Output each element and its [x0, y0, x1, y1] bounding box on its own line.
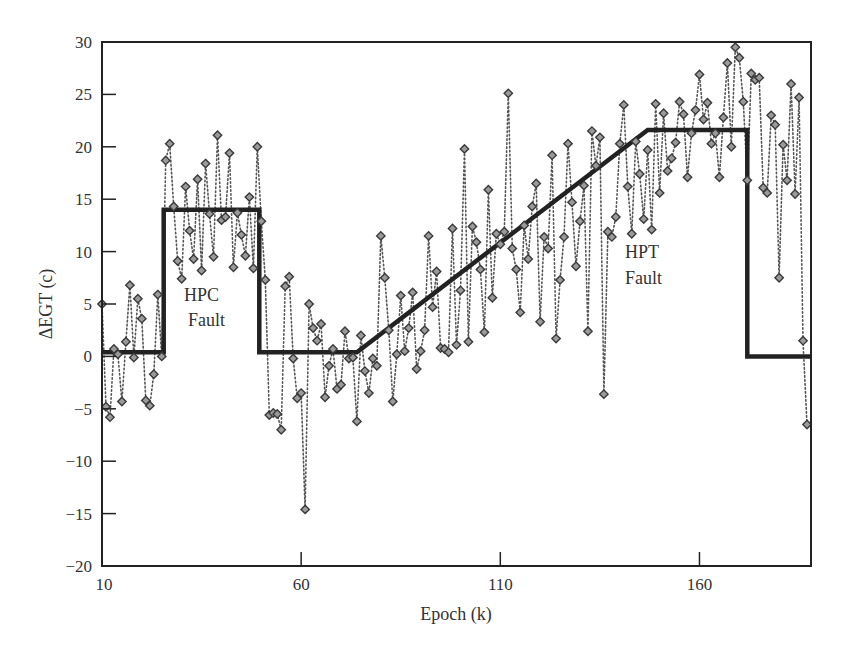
data-point-marker [102, 403, 110, 411]
data-point-marker [393, 350, 401, 358]
plot-area [98, 43, 811, 514]
data-point-marker [675, 98, 683, 106]
data-point-marker [707, 139, 715, 147]
data-point-marker [476, 265, 484, 273]
data-point-marker [405, 324, 413, 332]
y-tick-label: 0 [84, 347, 93, 366]
data-point-marker [150, 370, 158, 378]
data-point-marker [540, 233, 548, 241]
data-point-marker [588, 127, 596, 135]
data-point-marker [241, 252, 249, 260]
data-point-marker [548, 151, 556, 159]
data-point-marker [719, 113, 727, 121]
data-point-marker [723, 59, 731, 67]
data-point-marker [703, 99, 711, 107]
data-point-marker [281, 282, 289, 290]
data-point-marker [640, 215, 648, 223]
data-point-marker [572, 262, 580, 270]
data-point-marker [683, 173, 691, 181]
hpc-label: HPC [184, 285, 219, 305]
y-tick-label: 15 [75, 190, 92, 209]
data-point-marker [568, 198, 576, 206]
data-point-marker [122, 338, 130, 346]
data-point-marker [468, 222, 476, 230]
data-point-marker [596, 133, 604, 141]
data-point-marker [488, 294, 496, 302]
y-tick-label: −10 [65, 452, 92, 471]
data-point-marker [803, 420, 811, 428]
data-point-marker [408, 288, 416, 296]
y-tick-label: 5 [84, 295, 93, 314]
data-point-marker [679, 110, 687, 118]
data-point-marker [118, 397, 126, 405]
data-point-marker [201, 159, 209, 167]
data-point-marker [181, 182, 189, 190]
data-point-marker [130, 353, 138, 361]
data-point-marker [636, 170, 644, 178]
data-point-marker [162, 156, 170, 164]
data-point-marker [536, 318, 544, 326]
data-point-marker [193, 175, 201, 183]
data-point-marker [456, 286, 464, 294]
data-point-marker [663, 167, 671, 175]
data-point-marker [651, 100, 659, 108]
data-point-marker [177, 275, 185, 283]
data-point-marker [552, 334, 560, 342]
data-point-marker [731, 43, 739, 51]
data-point-marker [620, 101, 628, 109]
y-tick-label: 25 [75, 85, 92, 104]
y-tick-label: −20 [65, 557, 92, 576]
data-point-marker [325, 362, 333, 370]
data-point-marker [229, 263, 237, 271]
data-point-marker [428, 303, 436, 311]
data-point-marker [225, 149, 233, 157]
data-point-marker [464, 338, 472, 346]
data-point-marker [787, 80, 795, 88]
data-point-marker [695, 70, 703, 78]
hpc-fault-label: Fault [188, 310, 225, 330]
data-point-marker [106, 413, 114, 421]
data-point-marker [213, 131, 221, 139]
data-point-marker [767, 111, 775, 119]
data-point-marker [735, 54, 743, 62]
data-point-marker [277, 426, 285, 434]
data-point-marker [134, 295, 142, 303]
data-point-marker [576, 217, 584, 225]
chart: 302520151050−5−10−15−20 1060110160 Epoch… [0, 0, 849, 654]
y-tick-label: 20 [75, 138, 92, 157]
data-point-marker [357, 331, 365, 339]
data-point-marker [783, 176, 791, 184]
data-point-marker [401, 347, 409, 355]
data-point-marker [484, 186, 492, 194]
data-point-marker [373, 362, 381, 370]
data-point-marker [480, 328, 488, 336]
data-point-marker [261, 276, 269, 284]
data-point-marker [556, 276, 564, 284]
data-point-marker [795, 93, 803, 101]
y-tick-label: −5 [74, 400, 92, 419]
data-point-marker [166, 139, 174, 147]
data-point-marker [126, 281, 134, 289]
y-axis: 302520151050−5−10−15−20 [65, 33, 116, 576]
data-point-marker [412, 365, 420, 373]
data-point-marker [189, 255, 197, 263]
data-point-marker [432, 267, 440, 275]
data-point-marker [727, 143, 735, 151]
data-point-marker [699, 115, 707, 123]
hpc-fault-annotation: HPC Fault [184, 285, 225, 330]
data-point-marker [245, 193, 253, 201]
data-point-marker [317, 320, 325, 328]
data-point-marker [154, 290, 162, 298]
data-point-marker [779, 141, 787, 149]
x-tick-label: 10 [96, 575, 113, 594]
data-point-marker [197, 266, 205, 274]
data-point-marker [504, 89, 512, 97]
data-point-marker [516, 308, 524, 316]
data-point-marker [715, 173, 723, 181]
data-point-marker [289, 354, 297, 362]
data-point-marker [138, 314, 146, 322]
data-point-marker [771, 121, 779, 129]
data-point-marker [253, 143, 261, 151]
data-point-marker [173, 257, 181, 265]
hpt-fault-label: Fault [625, 268, 662, 288]
